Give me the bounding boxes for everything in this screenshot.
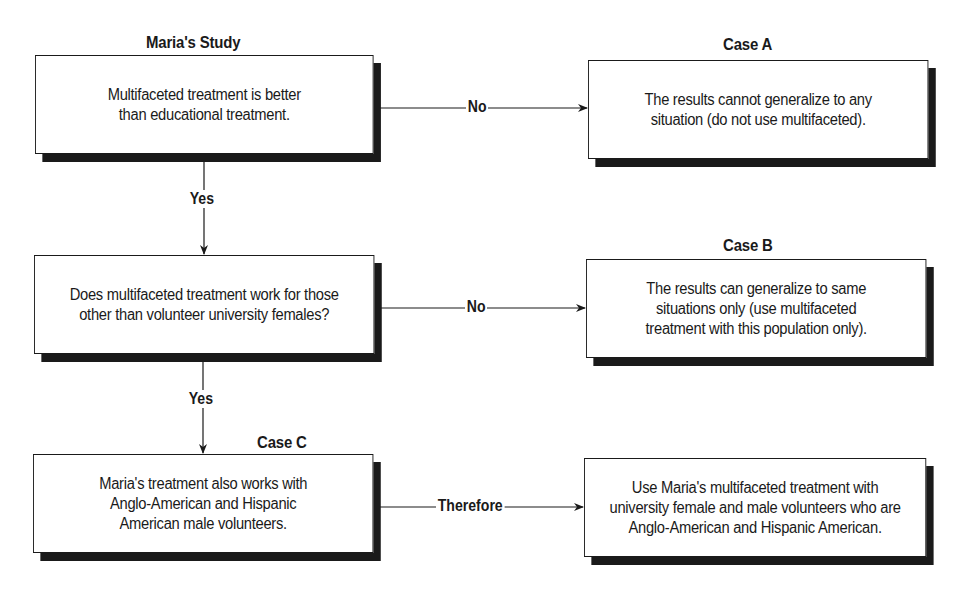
heading-case-c: Case C (257, 433, 307, 453)
node-conclusion-text: Use Maria's multifaceted treatment with … (610, 478, 901, 538)
heading-marias-study: Maria's Study (146, 33, 240, 53)
node-case-b: The results can generalize to same situa… (586, 259, 926, 358)
heading-case-a: Case A (723, 35, 772, 55)
node-question-text: Does multifaceted treatment work for tho… (70, 285, 339, 325)
node-case-c: Maria's treatment also works with Anglo-… (33, 454, 373, 553)
edge-label-therefore: Therefore (436, 497, 504, 515)
edge-label-yes-1: Yes (188, 190, 216, 208)
node-case-a-text: The results cannot generalize to any sit… (645, 90, 872, 130)
edge-label-no-case-a: No (466, 98, 488, 116)
node-case-b-text: The results can generalize to same situa… (646, 279, 867, 339)
heading-case-b: Case B (723, 236, 773, 256)
node-marias-study-text: Multifaceted treatment is better than ed… (108, 85, 301, 125)
node-case-a: The results cannot generalize to any sit… (588, 60, 928, 159)
node-conclusion: Use Maria's multifaceted treatment with … (584, 458, 926, 557)
node-question: Does multifaceted treatment work for tho… (34, 255, 374, 354)
node-marias-study: Multifaceted treatment is better than ed… (35, 55, 374, 154)
edge-label-yes-2: Yes (187, 390, 215, 408)
edge-label-no-case-b: No (465, 298, 487, 316)
node-case-c-text: Maria's treatment also works with Anglo-… (99, 474, 307, 534)
